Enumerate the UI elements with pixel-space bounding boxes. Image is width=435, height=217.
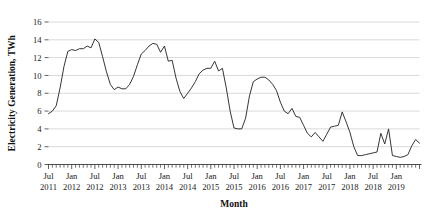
x-tick-label-year: 2014 — [179, 182, 197, 192]
x-tick-label-year: 2019 — [388, 182, 405, 192]
x-axis-tick-labels: Jul2011Jan2012Jul2012Jan2013Jul2013Jan20… — [40, 171, 405, 192]
x-tick-label-month: Jan — [66, 171, 78, 181]
x-tick-label-year: 2014 — [156, 182, 174, 192]
x-tick-label-year: 2018 — [365, 182, 382, 192]
x-tick-label-month: Jul — [90, 171, 101, 181]
x-tick-label-month: Jul — [322, 171, 333, 181]
x-tick-label-month: Jul — [275, 171, 286, 181]
x-tick-label-month: Jan — [112, 171, 124, 181]
y-axis-title: Electricity Generation, TWh — [7, 34, 17, 151]
x-tick-label-month: Jan — [205, 171, 217, 181]
electricity-generation-line-chart: 0246810121416 Jul2011Jan2012Jul2012Jan20… — [0, 0, 435, 217]
x-axis-ticks — [49, 165, 420, 170]
x-tick-label-year: 2015 — [202, 182, 219, 192]
x-tick-label-year: 2017 — [295, 182, 313, 192]
y-tick-label: 10 — [33, 71, 42, 81]
y-tick-label: 0 — [37, 160, 41, 170]
x-axis-title: Month — [220, 199, 248, 209]
y-tick-label: 8 — [37, 88, 41, 98]
x-tick-label-year: 2012 — [86, 182, 103, 192]
x-tick-label-year: 2015 — [225, 182, 242, 192]
x-tick-label-year: 2013 — [109, 182, 126, 192]
y-tick-label: 4 — [37, 124, 42, 134]
x-tick-label-year: 2013 — [133, 182, 150, 192]
x-tick-label-year: 2016 — [249, 182, 267, 192]
x-tick-label-year: 2016 — [272, 182, 290, 192]
y-axis-ticks: 0246810121416 — [33, 17, 49, 170]
y-tick-label: 14 — [33, 35, 42, 45]
x-tick-label-month: Jul — [183, 171, 194, 181]
y-tick-label: 2 — [37, 142, 41, 152]
x-tick-label-year: 2011 — [40, 182, 57, 192]
x-tick-label-month: Jan — [344, 171, 356, 181]
x-tick-label-month: Jan — [391, 171, 403, 181]
x-tick-label-month: Jul — [136, 171, 147, 181]
chart-plot-area: 0246810121416 Jul2011Jan2012Jul2012Jan20… — [0, 0, 435, 217]
data-series-line — [49, 39, 420, 157]
y-tick-label: 6 — [37, 106, 42, 116]
x-tick-label-month: Jul — [43, 171, 54, 181]
x-tick-label-month: Jan — [298, 171, 310, 181]
x-tick-label-month: Jul — [229, 171, 240, 181]
x-tick-label-year: 2018 — [341, 182, 358, 192]
x-tick-label-year: 2012 — [63, 182, 80, 192]
x-tick-label-month: Jul — [368, 171, 379, 181]
y-tick-label: 16 — [33, 17, 42, 27]
x-tick-label-month: Jan — [159, 171, 171, 181]
y-tick-label: 12 — [33, 53, 42, 63]
x-tick-label-month: Jan — [251, 171, 263, 181]
x-tick-label-year: 2017 — [318, 182, 336, 192]
